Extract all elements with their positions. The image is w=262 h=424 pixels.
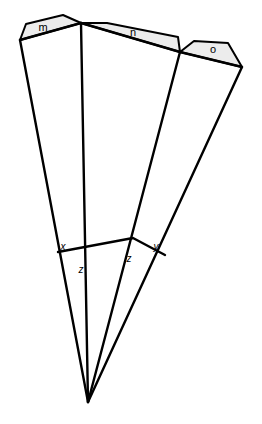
ray-group [20,23,242,402]
ray-left [20,40,88,402]
transversal-line [58,238,165,255]
ray-right [88,67,242,402]
ray-center-left [81,23,88,402]
angle-label-x-left: x [60,241,67,252]
region-label-o: o [210,43,216,55]
angle-label-group: x z z y [60,241,160,275]
region-label-m: m [38,21,47,33]
ray-center-right [88,52,180,402]
angle-label-z-left: z [78,264,84,275]
angle-label-z-right: z [126,253,132,264]
geometry-figure: m n o x z z y [0,0,262,424]
geometry-canvas: m n o x z z y [0,0,262,424]
region-label-n: n [130,26,136,38]
angle-label-y-right: y [153,241,160,252]
